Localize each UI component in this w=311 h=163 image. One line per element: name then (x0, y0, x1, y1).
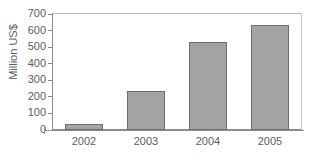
y-tick-label: 400 (20, 58, 46, 69)
scan-edge (0, 160, 311, 161)
x-tick-label-2002: 2002 (53, 134, 115, 150)
y-axis-tick-labels: 700 600 500 400 300 200 100 0 (20, 8, 46, 136)
x-axis-tick-labels: 2002 2003 2004 2005 (53, 134, 301, 150)
y-axis-title: Million US$ (7, 7, 21, 97)
bar-2003 (127, 91, 165, 130)
x-axis-origin-tick (44, 127, 45, 134)
bar-slot (177, 14, 239, 130)
bar-2004 (189, 42, 227, 130)
y-tick-label: 200 (20, 91, 46, 102)
bar-slot (115, 14, 177, 130)
x-tick-label-2003: 2003 (115, 134, 177, 150)
y-tick-label: 600 (20, 25, 46, 36)
bar-slot (53, 14, 115, 130)
x-tick-label-2004: 2004 (177, 134, 239, 150)
y-tick-label: 0 (20, 124, 46, 135)
bar-chart: Million US$ 700 600 500 400 300 200 100 … (0, 0, 311, 163)
x-axis-line (44, 130, 304, 131)
bars-container (53, 14, 301, 130)
y-tick-label: 500 (20, 41, 46, 52)
y-tick-label: 700 (20, 8, 46, 19)
x-tick-label-2005: 2005 (239, 134, 301, 150)
bar-slot (239, 14, 301, 130)
y-tick-label: 300 (20, 74, 46, 85)
y-tick-label: 100 (20, 107, 46, 118)
bar-2005 (251, 25, 289, 130)
